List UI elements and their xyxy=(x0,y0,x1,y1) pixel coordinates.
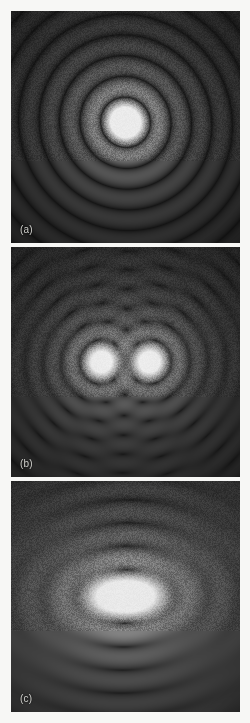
airy-pattern-canvas-b xyxy=(11,247,240,477)
diffraction-panel-b: (b) xyxy=(11,247,240,477)
diffraction-panel-a: (a) xyxy=(11,11,240,243)
diffraction-panel-c: (c) xyxy=(11,481,240,712)
panel-label-b: (b) xyxy=(20,459,33,469)
airy-pattern-canvas-c xyxy=(11,481,240,712)
airy-pattern-canvas-a xyxy=(11,11,240,243)
panel-label-c: (c) xyxy=(20,694,32,704)
figure-root: (a) (b) (c) xyxy=(0,0,250,723)
panel-label-a: (a) xyxy=(20,225,33,235)
